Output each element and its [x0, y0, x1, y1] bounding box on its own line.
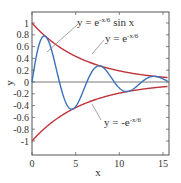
plot-frame: [32, 12, 169, 155]
svg-text:-0.8: -0.8: [13, 124, 29, 135]
annotation-leader-2: [92, 40, 104, 54]
svg-text:10: 10: [114, 158, 124, 169]
tick-marks: [32, 12, 169, 155]
y-tick-labels: 10.80.60.40.20-0.2-0.4-0.6-0.8-1: [13, 18, 29, 147]
svg-text:1: 1: [24, 18, 29, 29]
x-axis-label: x: [95, 166, 101, 178]
y-axis-label: y: [3, 80, 15, 86]
annotation-damped: y = e-x/6 sin x: [77, 16, 135, 28]
annotation-leader-1: [47, 24, 78, 52]
svg-text:5: 5: [73, 158, 78, 169]
svg-text:15: 15: [158, 158, 168, 169]
svg-text:0.4: 0.4: [17, 53, 30, 64]
svg-text:0.8: 0.8: [17, 29, 30, 40]
svg-text:0.2: 0.2: [17, 65, 30, 76]
annotation-leader-3: [92, 104, 101, 120]
annotation-envelope-neg: y = -e-x/6: [104, 116, 142, 128]
chart: 10.80.60.40.20-0.2-0.4-0.6-0.8-1 051015 …: [0, 0, 181, 183]
series-envelope-negative: [32, 86, 168, 141]
annotation-envelope-pos: y = e-x/6: [105, 32, 139, 44]
svg-text:0.6: 0.6: [17, 41, 30, 52]
svg-text:-1: -1: [21, 136, 29, 147]
svg-text:-0.2: -0.2: [13, 88, 29, 99]
svg-text:-0.6: -0.6: [13, 112, 29, 123]
svg-text:0: 0: [30, 158, 35, 169]
svg-text:-0.4: -0.4: [13, 100, 29, 111]
series-envelope-positive: [32, 23, 168, 78]
svg-text:0: 0: [24, 77, 29, 88]
